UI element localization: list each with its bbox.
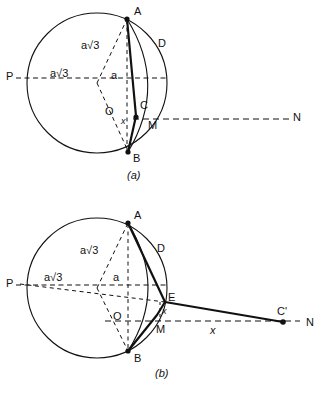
label-a-vertical-b: a	[113, 272, 119, 283]
dashed-line-p-to-e	[20, 284, 165, 302]
point-dot-b-b	[125, 348, 130, 353]
label-point-n-b: N	[306, 317, 314, 328]
label-a-root-3-left-b: a√3	[44, 272, 62, 283]
point-dot-c-prime	[280, 319, 286, 325]
chord-e-to-c-prime	[165, 302, 283, 322]
label-point-d-b: D	[157, 243, 165, 254]
label-point-p-b: P	[6, 278, 13, 289]
chord-a-e	[128, 223, 165, 302]
label-point-a-b: A	[134, 210, 141, 221]
point-dot-a-b	[125, 220, 130, 225]
label-x-distance-b: x	[210, 325, 216, 336]
label-a-root-3-upper-b: a√3	[80, 245, 98, 256]
label-point-c-prime: C'	[277, 306, 287, 317]
label-point-b-b: B	[134, 353, 141, 364]
figure-panel-b: A B D E C' M O P N a√3 a√3 a x x (b)	[0, 0, 323, 393]
label-point-o-b: O	[113, 311, 122, 322]
label-point-e: E	[168, 292, 175, 303]
label-x-angle-b: x	[162, 307, 167, 316]
caption-panel-b: (b)	[155, 368, 168, 379]
label-point-m-b: M	[156, 324, 165, 335]
